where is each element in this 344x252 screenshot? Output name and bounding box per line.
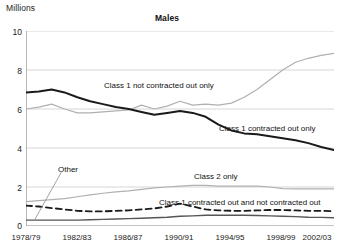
y-tick-label-6: 6 (4, 105, 22, 115)
y-axis-unit-label: Millions (6, 3, 35, 13)
y-tick-label-0: 0 (4, 221, 22, 231)
x-tick-label-1978-79: 1978/79 (0, 233, 53, 242)
series-line-class-1-not-contracted-out-only (26, 53, 334, 112)
axis-lines (26, 31, 334, 226)
leader-lines (34, 171, 62, 221)
y-tick-label-8: 8 (4, 66, 22, 76)
series-line-class-1-contracted-out-and-not-contracted-out (26, 204, 334, 212)
series-lines (26, 53, 334, 220)
x-tick-label-1990-91: 1990/91 (152, 233, 206, 242)
series-line-other (26, 215, 334, 220)
series-line-class-2-only (26, 185, 334, 201)
x-tick-label-1986-87: 1986/87 (101, 233, 155, 242)
plot-area (26, 31, 334, 226)
series-line-class-1-contracted-out-only (26, 90, 334, 150)
x-tick-label-2002-03: 2002/03 (290, 233, 344, 242)
leader-line-other (34, 171, 62, 221)
y-tick-label-2: 2 (4, 183, 22, 193)
plot-svg (26, 31, 334, 226)
chart-container: Millions Males 10 8 6 4 2 0 1978/79 1982… (0, 0, 344, 252)
chart-title-text: Males (155, 13, 179, 23)
x-tick-label-1982-83: 1982/83 (50, 233, 104, 242)
y-tick-label-4: 4 (4, 144, 22, 154)
y-tick-label-10: 10 (4, 27, 22, 37)
chart-title: Males (0, 13, 344, 23)
axis-ticks (26, 31, 334, 226)
x-tick-label-1994-95: 1994/95 (203, 233, 257, 242)
gridlines (26, 31, 334, 187)
